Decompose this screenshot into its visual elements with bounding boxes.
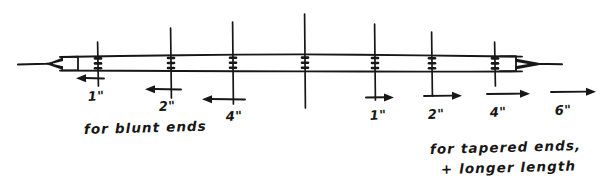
tick-mark-group (95, 14, 498, 108)
left-dim-label-2in: 2" (158, 98, 175, 114)
tick-2 (168, 28, 174, 98)
rod-marking-diagram: 1" 2" 4" 1" 2" 4" 6" for blunt ends for … (0, 0, 613, 188)
caption-tapered-ends-line2: + longer length (441, 157, 577, 177)
left-dim-label-1in: 1" (87, 88, 104, 104)
rod-left-taper-head-icon (46, 58, 63, 71)
caption-blunt-ends: for blunt ends (84, 118, 207, 137)
left-dim-label-4in: 4" (224, 108, 242, 124)
tick-4 (302, 14, 308, 108)
right-dim-2in (424, 92, 462, 100)
rod-left-taper-outline (62, 57, 78, 71)
rod-body-top-edge (60, 54, 522, 57)
tick-3 (230, 22, 236, 104)
left-dim-4in (202, 95, 245, 103)
rod-body-bottom-edge (60, 71, 522, 72)
right-dim-label-4in: 4" (488, 104, 506, 120)
rod-right-taper-outline (500, 56, 516, 71)
tick-1 (95, 42, 101, 86)
caption-tapered-ends-line1: for tapered ends, (430, 137, 582, 157)
right-dim-label-6in: 6" (554, 102, 571, 118)
right-dim-4in (487, 90, 530, 98)
right-dim-label-1in: 1" (369, 107, 386, 123)
right-dim-label-2in: 2" (427, 106, 444, 122)
right-dimension-arrows (366, 88, 596, 102)
right-dim-6in (551, 88, 596, 96)
tick-7 (492, 42, 498, 86)
left-dim-1in (76, 74, 104, 82)
left-dim-2in (145, 85, 181, 93)
tick-5 (372, 24, 378, 100)
tick-6 (429, 32, 435, 96)
right-dim-1in (366, 93, 394, 101)
